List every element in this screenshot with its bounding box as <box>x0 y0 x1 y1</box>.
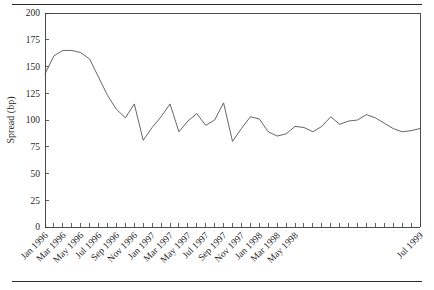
figure-container: 0255075100125150175200 Jan 1996Mar 1996M… <box>0 0 434 290</box>
y-axis-tick-label: 150 <box>26 62 41 72</box>
y-axis-tick-label: 50 <box>31 169 41 179</box>
y-axis-tick-marks <box>45 13 49 227</box>
figure-bottom-rule <box>12 281 422 282</box>
y-axis-tick-label: 0 <box>35 222 40 232</box>
figure-top-rule <box>12 4 422 5</box>
y-axis-tick-label: 100 <box>26 115 41 125</box>
y-axis-tick-label: 25 <box>31 196 41 206</box>
y-axis-tick-label: 200 <box>26 8 41 18</box>
x-axis-tick-marks <box>45 223 420 227</box>
y-axis-tick-labels: 0255075100125150175200 <box>26 8 41 232</box>
plot-frame <box>45 13 420 227</box>
spread-line-chart: 0255075100125150175200 Jan 1996Mar 1996M… <box>0 0 434 290</box>
y-axis-title: Spread (bp) <box>5 97 17 144</box>
x-axis-tick-label: Jul 1999 <box>395 230 425 260</box>
y-axis-tick-label: 75 <box>31 142 41 152</box>
y-axis-tick-label: 125 <box>26 89 41 99</box>
x-axis-tick-labels: Jan 1996Mar 1996May 1996Jul 1996Sep 1996… <box>19 230 425 265</box>
spread-data-line <box>45 50 420 141</box>
y-axis-tick-label: 175 <box>26 35 41 45</box>
